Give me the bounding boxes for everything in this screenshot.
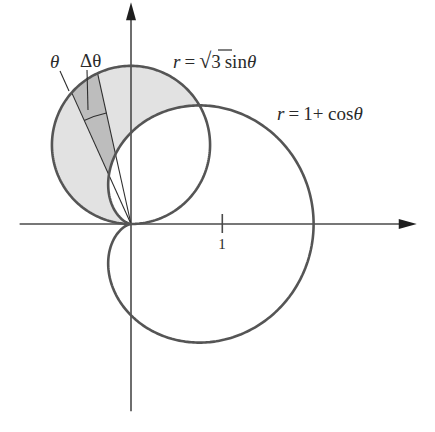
delta-theta-label: Δθ — [80, 50, 101, 71]
circle-eq-sin: sin — [225, 51, 248, 72]
cardioid-eq-rhs: 1+ cos — [303, 103, 353, 124]
theta-leader-line — [60, 71, 69, 91]
cardioid-eq-theta: θ — [353, 103, 362, 124]
theta-label: θ — [50, 51, 59, 72]
y-axis-arrowhead-icon — [126, 2, 136, 20]
delta-theta-text: Δθ — [80, 50, 101, 71]
cardioid-equation-label: r=1+ cosθ — [277, 103, 363, 124]
circle-equation-text: r=√3sinθ — [173, 48, 256, 73]
x-axis-arrowhead-icon — [399, 219, 417, 229]
cardioid-eq-r: r — [277, 103, 285, 124]
circle-eq-r: r — [173, 51, 181, 72]
circle-eq-equals: = — [184, 51, 195, 72]
polar-area-diagram: θ Δθ r=√3sinθ r=1+ cosθ 1 — [0, 0, 435, 432]
sqrt-symbol: √ — [199, 48, 212, 73]
circle-equation-label: r=√3sinθ — [173, 48, 256, 73]
circle-eq-theta: θ — [247, 51, 256, 72]
cardioid-eq-equals: = — [288, 103, 299, 124]
sqrt-argument: 3 — [211, 51, 221, 72]
x-tick-label-1: 1 — [218, 236, 226, 252]
